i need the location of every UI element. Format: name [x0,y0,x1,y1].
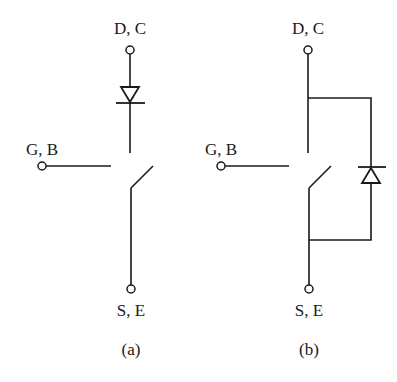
diode-icon-b [362,168,380,183]
terminal-gate-base-a [38,162,46,170]
panel-a: D, C G, B S, E (a) [26,19,153,359]
terminal-label-source-emitter-a: S, E [117,301,145,320]
terminal-label-drain-collector-b: D, C [292,19,324,38]
caption-a: (a) [122,340,141,359]
switch-blade-a [131,166,153,188]
diode-icon-a [121,87,139,102]
terminal-label-drain-collector-a: D, C [114,19,146,38]
terminal-drain-collector-b [304,46,312,54]
terminal-label-gate-base-a: G, B [26,140,58,159]
caption-b: (b) [299,340,319,359]
wire-diode-lower-b [309,183,371,240]
terminal-label-gate-base-b: G, B [205,140,237,159]
switch-blade-b [309,166,331,188]
circuit-diagram: D, C G, B S, E (a) D, C G, B S, E (b) [0,0,397,382]
terminal-label-source-emitter-b: S, E [295,301,323,320]
terminal-source-emitter-b [305,285,313,293]
panel-b: D, C G, B S, E (b) [205,19,386,359]
terminal-gate-base-b [217,162,225,170]
terminal-drain-collector-a [126,46,134,54]
terminal-source-emitter-a [127,285,135,293]
wire-diode-upper-b [308,98,371,167]
